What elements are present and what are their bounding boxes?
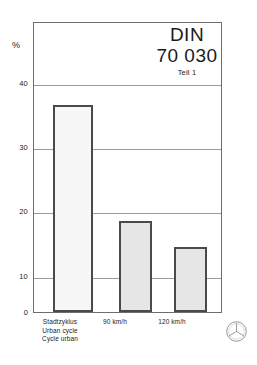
chart-figure: % 40 30 20 10 0 DIN 70 030 Teil 1 Stadtz… <box>0 0 257 365</box>
gridline-40 <box>34 85 221 86</box>
x-label-line-fr: Cycle urban <box>22 335 98 344</box>
x-label-line-en: Urban cycle <box>22 327 98 336</box>
x-label-120-kmh: 120 km/h <box>142 318 202 327</box>
y-tick-20: 20 <box>0 208 28 216</box>
y-tick-40: 40 <box>0 80 28 88</box>
bar-stadtzyklus <box>53 105 93 312</box>
y-tick-0: 0 <box>0 309 28 317</box>
chart-subtitle: Teil 1 <box>127 67 247 79</box>
bar-120-kmh <box>174 247 207 312</box>
mercedes-benz-star-icon <box>225 320 248 343</box>
x-label-line: 120 km/h <box>142 318 202 327</box>
y-tick-10: 10 <box>0 273 28 281</box>
x-label-90-kmh: 90 km/h <box>85 318 145 327</box>
chart-title-block: DIN 70 030 Teil 1 <box>127 24 247 79</box>
x-label-line: 90 km/h <box>85 318 145 327</box>
bar-90-kmh <box>119 221 152 312</box>
y-axis-unit-label: % <box>12 41 20 50</box>
y-tick-30: 30 <box>0 144 28 152</box>
chart-title-number: 70 030 <box>127 45 247 67</box>
chart-title-standard: DIN <box>127 24 247 45</box>
